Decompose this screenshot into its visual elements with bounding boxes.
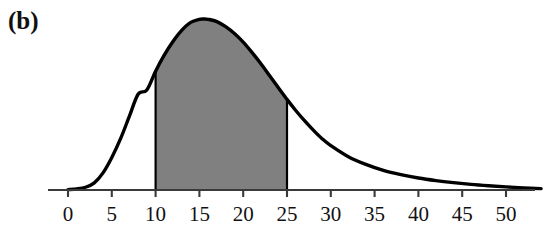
x-tick-label-0: 0	[63, 202, 74, 226]
x-tick-label-25: 25	[277, 202, 298, 226]
x-tick-label-15: 15	[189, 202, 210, 226]
figure-panel: (b) 05101520253035404550	[0, 0, 546, 234]
x-tick-label-10: 10	[145, 202, 166, 226]
x-tick-label-40: 40	[408, 202, 429, 226]
x-tick-label-50: 50	[496, 202, 517, 226]
x-axis-group: 05101520253035404550	[48, 190, 535, 226]
density-curve-chart: 05101520253035404550	[0, 0, 546, 234]
curve-group	[68, 19, 541, 190]
shaded-region	[156, 19, 287, 190]
shaded-area-group	[156, 19, 287, 190]
x-axis-tick-labels: 05101520253035404550	[63, 202, 517, 226]
x-tick-label-30: 30	[320, 202, 341, 226]
x-tick-label-20: 20	[233, 202, 254, 226]
x-tick-label-5: 5	[107, 202, 118, 226]
density-curve	[68, 19, 541, 190]
x-tick-label-45: 45	[452, 202, 473, 226]
x-tick-label-35: 35	[364, 202, 385, 226]
